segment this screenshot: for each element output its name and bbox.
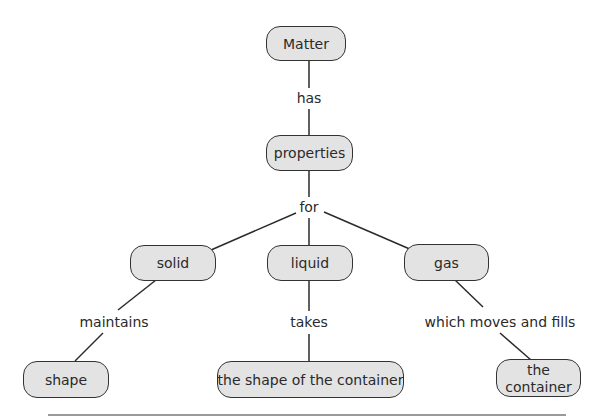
connector-which-moves-container (500, 333, 531, 360)
connector-solid-maintains (118, 280, 156, 310)
node-gas: gas (404, 244, 489, 281)
node-label: shape (45, 372, 87, 388)
node-solid: solid (130, 245, 216, 281)
node-matter: Matter (266, 26, 346, 61)
bottom-divider (48, 414, 566, 416)
node-label: the shape of the container (218, 372, 404, 388)
node-label: gas (434, 255, 459, 271)
link-label-has: has (297, 90, 322, 106)
link-label-maintains: maintains (79, 314, 148, 330)
node-shape: shape (23, 361, 109, 398)
connector-gas-which-moves (455, 280, 483, 307)
link-label-for: for (299, 199, 318, 215)
connector-maintains-shape (75, 333, 103, 361)
link-label-takes: takes (290, 314, 328, 330)
node-label: solid (157, 255, 190, 271)
node-the-container: the container (496, 359, 581, 397)
node-label: liquid (291, 255, 329, 271)
node-liquid: liquid (267, 245, 353, 281)
node-properties: properties (266, 135, 353, 171)
node-shape-of-container: the shape of the container (217, 361, 404, 398)
node-label: Matter (283, 36, 329, 52)
link-label-which-moves-and-fills: which moves and fills (425, 314, 576, 330)
node-label: the container (505, 362, 572, 396)
concept-map: Matter properties solid liquid gas shape… (0, 0, 606, 419)
node-label: properties (274, 145, 345, 161)
